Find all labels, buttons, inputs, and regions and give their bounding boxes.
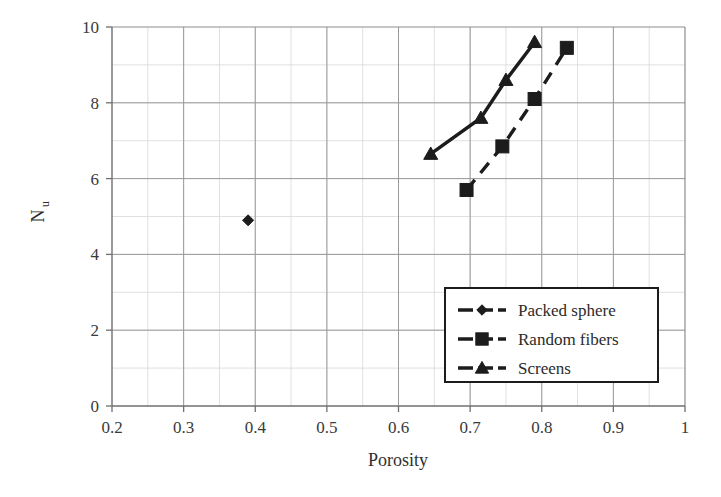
y-tick-label: 10 [82, 18, 99, 37]
data-series-layer [243, 35, 574, 226]
x-tick-label: 0.4 [245, 418, 267, 437]
data-point-marker [528, 35, 542, 47]
x-axis-tick-labels: 0.20.30.40.50.60.70.80.91 [101, 418, 689, 437]
legend-marker-square-icon [476, 333, 488, 345]
data-point-marker [528, 93, 541, 106]
y-tick-label: 6 [91, 170, 100, 189]
y-axis-title-base: N [28, 210, 48, 223]
legend-item-label: Packed sphere [518, 301, 616, 320]
x-axis-title: Porosity [368, 450, 428, 470]
data-point-marker [560, 41, 573, 54]
series-line [431, 42, 535, 154]
legend-item-label: Random fibers [518, 330, 619, 349]
legend-item-label: Screens [518, 359, 571, 378]
y-tick-label: 8 [91, 94, 100, 113]
x-tick-label: 0.3 [173, 418, 194, 437]
y-tick-label: 2 [91, 321, 100, 340]
x-tick-label: 0.7 [460, 418, 482, 437]
x-tick-label: 1 [681, 418, 690, 437]
y-tick-label: 4 [91, 245, 100, 264]
chart-legend[interactable]: Packed sphereRandom fibersScreens [445, 288, 658, 382]
chart-canvas: 0.20.30.40.50.60.70.80.91 0246810 Porosi… [0, 0, 721, 497]
chart-figure: 0.20.30.40.50.60.70.80.91 0246810 Porosi… [0, 0, 721, 497]
y-axis-title: N u [28, 201, 52, 223]
x-tick-label: 0.8 [531, 418, 552, 437]
x-tick-label: 0.5 [316, 418, 337, 437]
y-tick-label: 0 [91, 397, 100, 416]
x-tick-label: 0.2 [101, 418, 122, 437]
y-axis-title-subscript: u [38, 201, 52, 207]
x-tick-label: 0.9 [603, 418, 624, 437]
data-point-marker [460, 183, 473, 196]
data-point-marker [496, 140, 509, 153]
y-axis-tick-labels: 0246810 [82, 18, 100, 416]
x-tick-label: 0.6 [388, 418, 409, 437]
